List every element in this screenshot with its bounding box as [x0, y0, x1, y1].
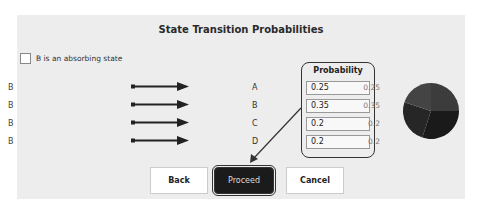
back-button[interactable]: Back — [150, 167, 208, 194]
proceed-button[interactable]: Proceed — [214, 167, 274, 194]
probability-pie-chart — [403, 83, 459, 139]
probability-display: 0.35 — [350, 101, 380, 110]
to-state-label: D — [252, 137, 258, 146]
transition-arrow-icon — [131, 100, 189, 109]
probability-display: 0.2 — [350, 137, 380, 146]
to-state-label: C — [252, 119, 258, 128]
absorbing-state-checkbox[interactable] — [20, 53, 31, 64]
from-state-label: B — [8, 119, 14, 128]
probability-display: 0.25 — [350, 83, 380, 92]
dialog-title: State Transition Probabilities — [17, 24, 465, 35]
absorbing-state-option[interactable]: B is an absorbing state — [20, 53, 122, 64]
transition-arrow-icon — [131, 136, 189, 145]
to-state-label: A — [252, 83, 257, 92]
probability-header: Probability — [302, 66, 374, 75]
transition-arrow-icon — [131, 118, 189, 127]
from-state-label: B — [8, 137, 14, 146]
to-state-label: B — [252, 101, 258, 110]
transition-arrow-icon — [131, 82, 189, 91]
probability-display: 0.2 — [350, 119, 380, 128]
from-state-label: B — [8, 83, 14, 92]
from-state-label: B — [8, 101, 14, 110]
absorbing-state-label: B is an absorbing state — [36, 54, 122, 63]
cancel-button[interactable]: Cancel — [286, 167, 344, 194]
